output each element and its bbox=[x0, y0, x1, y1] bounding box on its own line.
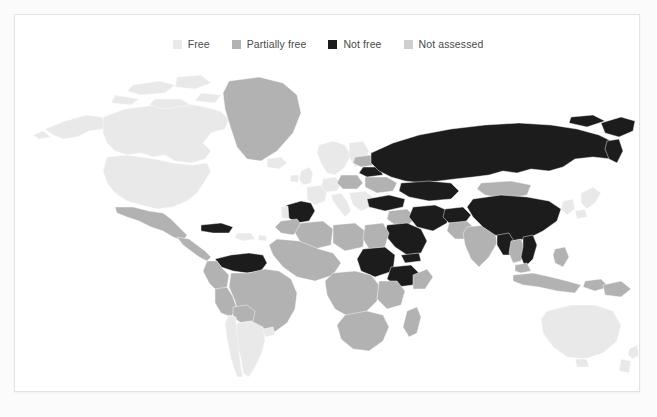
legend-label-free: Free bbox=[188, 39, 210, 50]
legend-item-partially-free[interactable]: Partially free bbox=[232, 39, 307, 50]
region-central-america[interactable] bbox=[177, 237, 211, 261]
region-papua-new-guinea[interactable] bbox=[603, 281, 631, 297]
region-russia[interactable] bbox=[371, 123, 621, 183]
legend-label-partially-free: Partially free bbox=[247, 39, 307, 50]
region-ukraine[interactable] bbox=[365, 177, 397, 193]
region-malaysia[interactable] bbox=[515, 263, 531, 273]
region-yemen[interactable] bbox=[401, 253, 421, 263]
land-layer bbox=[33, 75, 639, 377]
region-egypt[interactable] bbox=[363, 223, 389, 249]
region-southern-africa[interactable] bbox=[337, 311, 389, 351]
region-madagascar[interactable] bbox=[403, 307, 421, 337]
region-indonesia[interactable] bbox=[513, 273, 609, 293]
legend-label-not-assessed: Not assessed bbox=[419, 39, 484, 50]
region-canada[interactable] bbox=[103, 103, 229, 163]
legend-swatch-not-assessed bbox=[404, 40, 413, 49]
region-new-zealand[interactable] bbox=[619, 345, 639, 373]
region-australia[interactable] bbox=[541, 305, 621, 367]
region-afghanistan[interactable] bbox=[443, 207, 471, 223]
region-germany[interactable] bbox=[321, 177, 341, 192]
legend-label-not-free: Not free bbox=[343, 39, 381, 50]
region-kazakhstan[interactable] bbox=[399, 181, 459, 201]
region-alaska[interactable] bbox=[33, 115, 107, 139]
region-korea[interactable] bbox=[561, 199, 575, 215]
region-canada-arctic[interactable] bbox=[111, 75, 221, 109]
region-vietnam[interactable] bbox=[521, 235, 537, 267]
region-uruguay[interactable] bbox=[263, 327, 275, 337]
region-poland[interactable] bbox=[337, 175, 363, 189]
legend-swatch-not-free bbox=[328, 40, 337, 49]
legend-swatch-free bbox=[173, 40, 182, 49]
legend-item-not-free[interactable]: Not free bbox=[328, 39, 381, 50]
region-greenland[interactable] bbox=[223, 77, 301, 161]
region-kamchatka[interactable] bbox=[605, 139, 623, 163]
legend-item-free[interactable]: Free bbox=[173, 39, 210, 50]
legend-item-not-assessed[interactable]: Not assessed bbox=[404, 39, 484, 50]
region-hispaniola[interactable] bbox=[235, 233, 267, 241]
map-card: Free Partially free Not free Not assesse… bbox=[14, 14, 640, 392]
region-japan[interactable] bbox=[575, 187, 601, 219]
region-central-africa[interactable] bbox=[325, 271, 379, 317]
region-italy[interactable] bbox=[331, 193, 351, 217]
region-scandinavia[interactable] bbox=[317, 141, 351, 175]
region-iceland[interactable] bbox=[267, 157, 287, 169]
world-choropleth-map[interactable] bbox=[15, 59, 641, 389]
world-map-container[interactable] bbox=[15, 59, 641, 389]
legend-swatch-partially-free bbox=[232, 40, 241, 49]
region-united-kingdom[interactable] bbox=[290, 167, 313, 185]
region-mexico[interactable] bbox=[115, 207, 187, 241]
region-united-states[interactable] bbox=[103, 155, 211, 209]
region-cuba[interactable] bbox=[201, 223, 233, 233]
region-libya[interactable] bbox=[333, 223, 365, 251]
region-philippines[interactable] bbox=[553, 247, 569, 267]
screenshot-page: Free Partially free Not free Not assesse… bbox=[0, 0, 657, 417]
region-portugal[interactable] bbox=[281, 206, 289, 219]
map-legend: Free Partially free Not free Not assesse… bbox=[15, 39, 641, 50]
